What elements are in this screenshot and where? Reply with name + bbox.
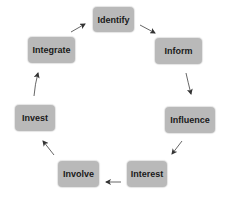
- arrow-invest-to-integrate: [34, 73, 38, 96]
- node-label: Interest: [131, 169, 164, 179]
- node-invest: Invest: [15, 105, 55, 131]
- node-integrate: Integrate: [28, 37, 75, 63]
- node-label: Involve: [63, 169, 94, 179]
- node-label: Invest: [22, 113, 48, 123]
- node-label: Inform: [165, 46, 193, 56]
- cycle-diagram: Identify Inform Influence Interest Invol…: [0, 0, 225, 198]
- arrow-influence-to-interest: [172, 141, 182, 154]
- node-inform: Inform: [155, 38, 202, 64]
- node-identify: Identify: [93, 7, 134, 32]
- arrow-inform-to-influence: [186, 73, 191, 94]
- arrow-integrate-to-identify: [71, 24, 85, 32]
- node-label: Identify: [97, 15, 129, 25]
- node-label: Influence: [170, 115, 210, 125]
- node-involve: Involve: [58, 161, 99, 187]
- node-interest: Interest: [127, 161, 167, 187]
- node-label: Integrate: [32, 45, 70, 55]
- arrow-identify-to-inform: [140, 25, 155, 33]
- node-influence: Influence: [165, 107, 215, 133]
- arrow-involve-to-invest: [43, 141, 54, 155]
